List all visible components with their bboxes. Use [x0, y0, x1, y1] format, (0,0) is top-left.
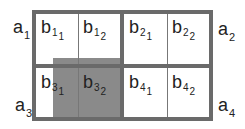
cell-b31: b31 — [41, 73, 64, 94]
cell-b22: b22 — [172, 18, 195, 39]
cell-b11: b11 — [41, 18, 64, 39]
cell-b42: b42 — [172, 73, 195, 94]
cell-b12: b12 — [83, 18, 106, 39]
label-a1: a1 — [13, 18, 30, 38]
label-a4: a4 — [218, 96, 235, 116]
cell-b32: b32 — [83, 73, 106, 94]
label-a3: a3 — [15, 96, 32, 116]
cell-b41: b41 — [129, 73, 152, 94]
border-middle-horizontal — [32, 64, 213, 68]
cell-b21: b21 — [129, 18, 152, 39]
label-a2: a2 — [218, 20, 235, 40]
